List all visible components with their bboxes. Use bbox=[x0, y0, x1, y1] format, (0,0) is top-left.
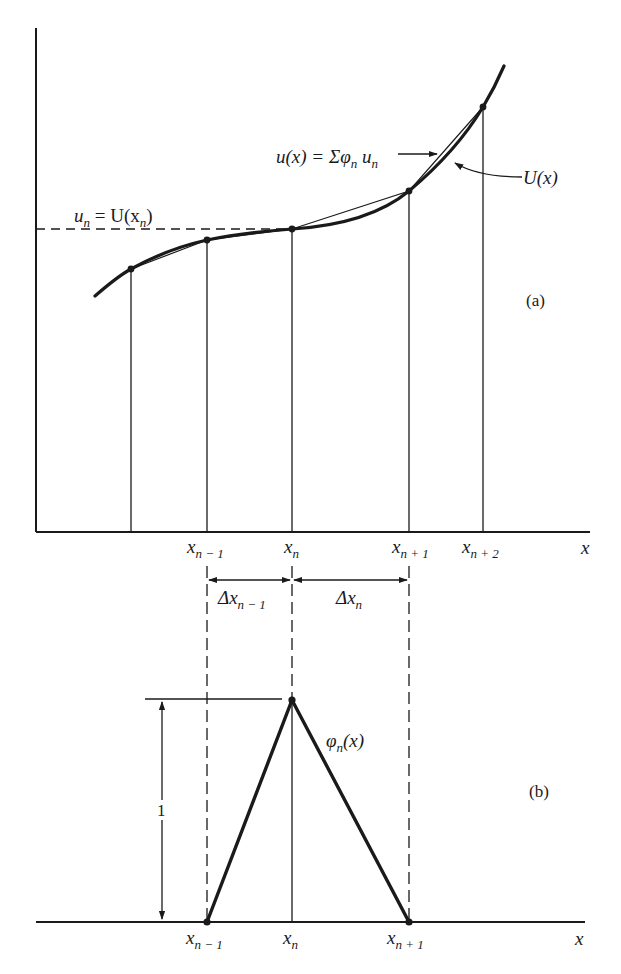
finite-element-diagram: un = U(xn) u(x) = Σφn un U(x) (a) xn − 1… bbox=[0, 0, 621, 974]
hat-basis-function bbox=[207, 700, 409, 922]
tick-x-n-minus-1: xn − 1 bbox=[186, 536, 224, 561]
tick-b-x-n-plus-1: xn + 1 bbox=[386, 927, 424, 952]
panel-b: 1 φn(x) (b) xn − 1 xn xn + 1 x bbox=[36, 696, 585, 952]
panel-b-label: (b) bbox=[529, 782, 549, 801]
height-label-one: 1 bbox=[157, 801, 166, 820]
panel-a: un = U(xn) u(x) = Σφn un U(x) (a) xn − 1… bbox=[36, 28, 590, 612]
panel-a-label: (a) bbox=[526, 291, 545, 310]
Ux-pointer-arrow bbox=[455, 163, 522, 177]
ux-equation-label: u(x) = Σφn un bbox=[276, 146, 378, 171]
x-axis-label-b: x bbox=[574, 928, 584, 949]
delta-x-n-minus-1-label: Δxn − 1 bbox=[217, 587, 266, 612]
tick-x-n-plus-1: xn + 1 bbox=[391, 536, 429, 561]
x-axis-label-a: x bbox=[580, 537, 590, 558]
Ux-curve-label: U(x) bbox=[523, 167, 558, 189]
dashed-projection-lines bbox=[207, 566, 409, 922]
tick-x-n: xn bbox=[283, 536, 299, 561]
un-equation-label: un = U(xn) bbox=[74, 205, 153, 230]
tick-b-x-n: xn bbox=[282, 927, 298, 952]
exact-curve-U bbox=[95, 66, 504, 296]
tick-b-x-n-minus-1: xn − 1 bbox=[185, 927, 223, 952]
delta-x-n-label: Δxn bbox=[335, 587, 362, 612]
tick-x-n-plus-2: xn + 2 bbox=[461, 536, 499, 561]
phi-n-label: φn(x) bbox=[326, 730, 364, 755]
